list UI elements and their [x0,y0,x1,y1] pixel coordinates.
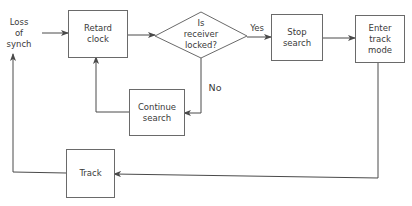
enter-line-2: track [368,34,392,45]
retard-line-1: Retard [84,23,112,34]
enter-line-1: Enter [368,23,392,34]
no-label: No [206,82,224,93]
stop-search-box: Stop search [271,14,323,61]
continue-line-1: Continue [138,102,176,113]
continue-line-2: search [138,113,176,124]
stop-line-2: search [283,38,311,49]
track-line-1: Track [79,168,101,179]
loss-line-2: of [2,28,36,39]
decision-line-3: locked? [171,40,231,51]
loss-of-synch-label: Loss of synch [2,17,36,50]
edge-decision-to-continue [184,58,201,113]
edge-track-to-loss [13,54,66,173]
track-box: Track [66,149,115,198]
loss-line-1: Loss [2,17,36,28]
enter-track-mode-box: Enter track mode [355,15,405,63]
decision-label: Is receiver locked? [171,18,231,51]
decision-line-2: receiver [171,29,231,40]
loss-line-3: synch [2,39,36,50]
edge-continue-to-retard [96,57,129,112]
retard-clock-box: Retard clock [68,10,128,58]
retard-line-2: clock [84,34,112,45]
decision-line-1: Is [171,18,231,29]
yes-label: Yes [246,23,268,34]
enter-line-3: mode [368,45,392,56]
stop-line-1: Stop [283,27,311,38]
continue-search-box: Continue search [129,89,185,136]
